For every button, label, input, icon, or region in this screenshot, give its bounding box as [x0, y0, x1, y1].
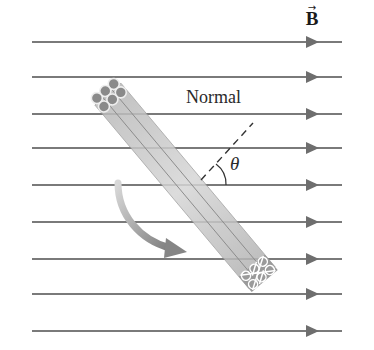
- field-arrowhead-icon: [306, 325, 319, 337]
- angle-arc: [216, 164, 226, 185]
- field-arrowhead-icon: [306, 142, 319, 154]
- field-arrowhead-icon: [306, 71, 319, 83]
- field-arrowhead-icon: [306, 179, 319, 191]
- coil-in-magnetic-field-diagram: [0, 0, 374, 350]
- normal-label: Normal: [186, 87, 241, 108]
- normal-dashed-line: [201, 123, 253, 180]
- field-arrowhead-icon: [306, 253, 319, 265]
- field-label: B: [302, 8, 322, 30]
- angle-label: θ: [230, 153, 239, 175]
- field-arrowhead-icon: [306, 216, 319, 228]
- field-arrowhead-icon: [306, 36, 319, 48]
- field-arrowhead-icon: [306, 288, 319, 300]
- field-arrowhead-icon: [306, 108, 319, 120]
